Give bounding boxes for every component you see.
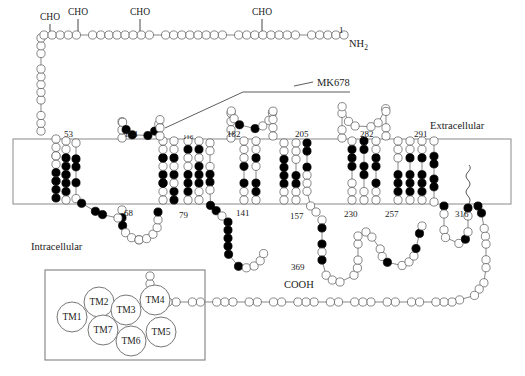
- residue-letter: F: [161, 146, 164, 152]
- residue-letter: M: [137, 237, 141, 243]
- residue-letter: S: [326, 32, 330, 38]
- residue-letter: I: [397, 172, 398, 178]
- residue-position-number: 79: [179, 210, 189, 220]
- residue-letter: D: [385, 299, 389, 305]
- residue-letter: M: [374, 197, 378, 203]
- residue-letter: L: [191, 299, 194, 305]
- residue-letter: H: [121, 119, 125, 125]
- residue-letter: F: [186, 163, 189, 169]
- residue-letter: F: [172, 172, 175, 178]
- tm-helix-label: TM7: [94, 325, 113, 335]
- residue-position-number: 141: [236, 208, 250, 218]
- tm-helix-label: TM1: [63, 312, 82, 322]
- residue-letter: I: [297, 299, 298, 305]
- residue-letter: D: [473, 292, 477, 298]
- residue-letter: T: [248, 299, 251, 305]
- residue-letter: V: [412, 253, 416, 259]
- residue-letter: E: [304, 299, 308, 305]
- residue-letter: S: [58, 32, 62, 38]
- residue-letter: C: [64, 172, 68, 178]
- residue-letter: S: [442, 203, 446, 209]
- residue-letter: K: [324, 272, 328, 278]
- residue-letter: R: [442, 299, 446, 305]
- residue-letter: T: [272, 299, 275, 305]
- residue-letter: F: [39, 120, 42, 126]
- membrane-box: [13, 139, 511, 204]
- first-residue-number: 1: [339, 25, 344, 35]
- residue-letter: G: [131, 32, 135, 38]
- residue-letter: N: [312, 299, 316, 305]
- residue-letter: G: [186, 172, 190, 178]
- residue-letter: S: [432, 184, 436, 190]
- residue-letter: L: [198, 180, 201, 186]
- residue-letter: I: [159, 125, 160, 131]
- residue-letter: L: [306, 188, 309, 194]
- residue-letter: I: [363, 172, 364, 178]
- residue-letter: A: [262, 251, 266, 257]
- residue-letter: P: [285, 32, 289, 38]
- residue-letter: N: [139, 32, 143, 38]
- residue-letter: P: [320, 217, 324, 223]
- residue-letter: N: [309, 203, 313, 209]
- residue-letter: V: [350, 180, 354, 186]
- residue-letter: D: [186, 180, 190, 186]
- residue-letter: M: [408, 197, 412, 203]
- residue-letter: I: [173, 197, 174, 203]
- residue-letter: F: [237, 263, 240, 269]
- residue-letter: S: [271, 125, 275, 131]
- residue-letter: S: [350, 189, 354, 195]
- residue-letter: S: [370, 234, 374, 240]
- residue-letter: N: [75, 32, 79, 38]
- residue-letter: S: [374, 189, 378, 195]
- residue-letter: Y: [254, 155, 258, 161]
- residue-letter: V: [242, 155, 246, 161]
- c-terminus-label: COOH: [284, 279, 314, 290]
- residue-letter: K: [418, 230, 422, 236]
- residue-letter: T: [377, 120, 380, 126]
- residue-letter: S: [464, 236, 468, 242]
- residue-letter: A: [384, 108, 388, 114]
- residue-letter: Q: [393, 299, 397, 305]
- residue-letter: D: [477, 286, 481, 292]
- residue-letter: S: [331, 277, 335, 283]
- residue-letter: V: [482, 226, 486, 232]
- residue-letter: L: [363, 163, 366, 169]
- residue-letter: D: [164, 32, 168, 38]
- residue-letter: Q: [231, 299, 235, 305]
- n-terminus-label: NH2: [349, 38, 368, 52]
- residue-letter: G: [253, 32, 257, 38]
- residue-letter: S: [245, 32, 249, 38]
- residue-letter: L: [198, 155, 201, 161]
- residue-letter: W: [212, 32, 217, 38]
- residue-letter: V: [484, 241, 488, 247]
- cho-label: CHO: [130, 7, 150, 17]
- residue-letter: W: [362, 146, 367, 152]
- residue-letter: T: [408, 172, 411, 178]
- residue-letter: K: [410, 299, 414, 305]
- residue-letter: G: [294, 173, 298, 179]
- residue-letter: P: [180, 32, 184, 38]
- residue-letter: S: [39, 128, 43, 134]
- residue-letter: A: [340, 104, 344, 110]
- residue-letter: C: [54, 170, 58, 176]
- residue-letter: M: [420, 172, 424, 178]
- residue-letter: D: [369, 299, 373, 305]
- residue-position-number: 53: [64, 129, 74, 139]
- residue-letter: I: [149, 32, 150, 38]
- residue-position-number: 68: [124, 208, 134, 218]
- residue-letter: V: [420, 146, 424, 152]
- residue-letter: M: [408, 138, 412, 144]
- residue-letter: S: [353, 123, 357, 129]
- residue-letter: I: [65, 189, 66, 195]
- residue-chain-group: SFTLDTYPETIANSLNTSVYSGNIDEPISLWTHSGDNLPQ…: [37, 31, 490, 306]
- tm-helix-label: TM4: [146, 295, 165, 305]
- residue-letter: G: [305, 140, 309, 146]
- residue-letter: A: [172, 138, 176, 144]
- residue-letter: G: [356, 233, 360, 239]
- residue-letter: M: [350, 138, 354, 144]
- residue-letter: S: [364, 229, 368, 235]
- residue-letter: L: [397, 197, 400, 203]
- residue-letter: P: [172, 146, 176, 152]
- residue-letter: S: [340, 110, 344, 116]
- residue-letter: W: [232, 116, 237, 122]
